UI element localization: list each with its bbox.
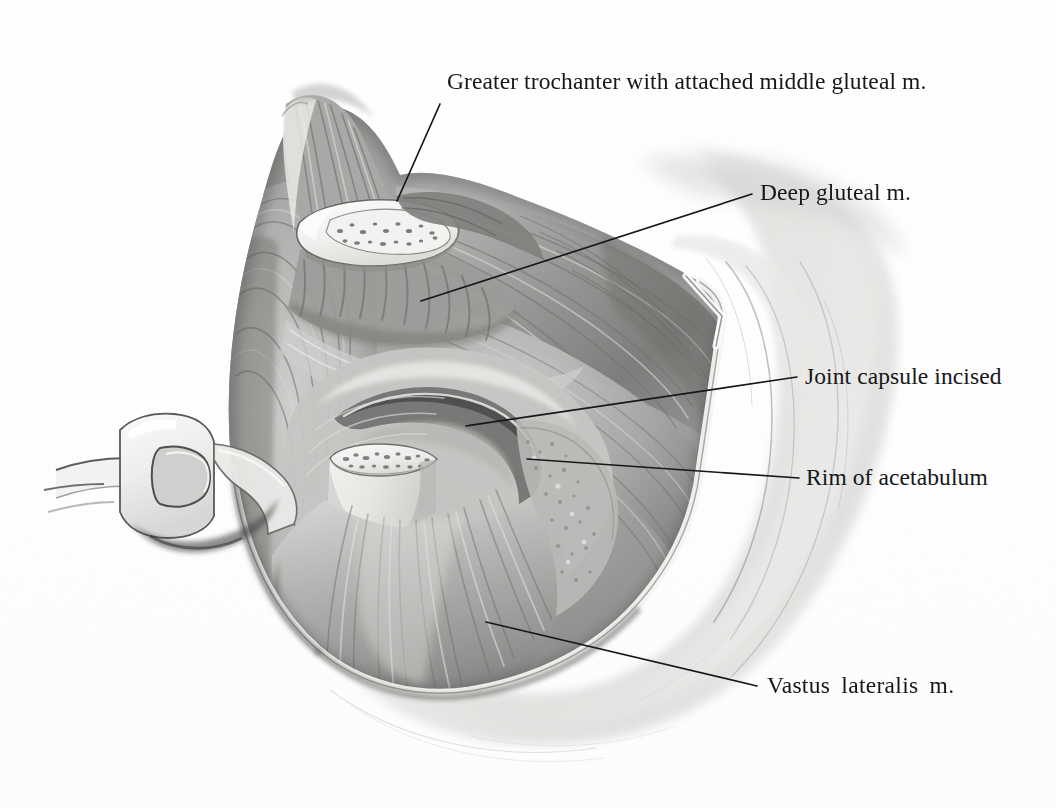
- label-deep-gluteal: Deep gluteal m.: [760, 181, 911, 205]
- label-greater-trochanter: Greater trochanter with attached middle …: [447, 70, 926, 94]
- label-vastus-lateralis: Vastus lateralis m.: [767, 674, 954, 698]
- label-joint-capsule: Joint capsule incised: [805, 365, 1002, 389]
- label-rim-of-acetabulum: Rim of acetabulum: [806, 466, 988, 490]
- illustration-plate: Greater trochanter with attached middle …: [0, 0, 1056, 808]
